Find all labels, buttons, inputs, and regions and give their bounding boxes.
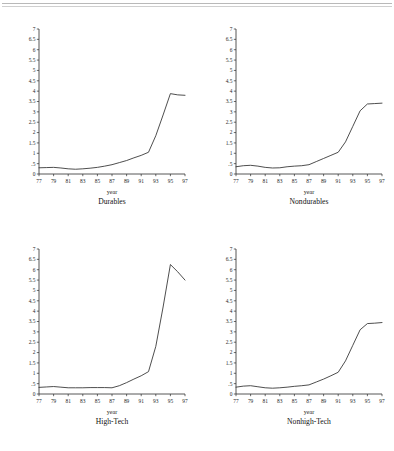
y-tick-label: 6 bbox=[33, 47, 36, 53]
panel-title: Nondurables bbox=[290, 197, 329, 206]
x-tick-label: 95 bbox=[168, 178, 174, 184]
y-tick-label: 3 bbox=[33, 329, 36, 335]
y-tick-label: 7 bbox=[230, 246, 233, 252]
y-tick-label: 1.5 bbox=[29, 360, 36, 366]
x-tick-label: 79 bbox=[51, 398, 57, 404]
y-tick-label: 6.5 bbox=[29, 36, 36, 42]
panel-title: High-Tech bbox=[96, 417, 129, 426]
y-tick-label: 6 bbox=[230, 47, 233, 53]
y-tick-label: 4 bbox=[230, 308, 233, 314]
y-tick-label: 0 bbox=[33, 171, 36, 177]
y-tick-label: 5 bbox=[230, 67, 233, 73]
plot-area: 0.511.522.533.544.555.566.57777981838587… bbox=[197, 231, 394, 451]
x-tick-label: 91 bbox=[336, 398, 342, 404]
y-tick-label: 3.5 bbox=[226, 98, 233, 104]
x-tick-label: 77 bbox=[233, 178, 239, 184]
y-tick-label: 3.5 bbox=[226, 318, 233, 324]
y-tick-label: 2.5 bbox=[226, 339, 233, 345]
x-tick-label: 79 bbox=[51, 178, 57, 184]
y-tick-label: 3 bbox=[230, 109, 233, 115]
header-rule-top bbox=[2, 3, 392, 4]
y-tick-label: 4 bbox=[33, 308, 36, 314]
x-tick-label: 85 bbox=[95, 178, 101, 184]
x-axis-title: year bbox=[304, 188, 315, 195]
y-tick-label: 0 bbox=[230, 391, 233, 397]
x-tick-label: 89 bbox=[124, 398, 130, 404]
y-tick-label: 4 bbox=[230, 88, 233, 94]
axis-spine bbox=[39, 249, 185, 394]
x-axis-title: year bbox=[107, 408, 118, 415]
y-tick-label: .5 bbox=[228, 381, 232, 387]
x-tick-label: 81 bbox=[263, 178, 269, 184]
y-tick-label: 5.5 bbox=[226, 57, 233, 63]
x-tick-label: 97 bbox=[182, 178, 188, 184]
y-tick-label: 6.5 bbox=[226, 36, 233, 42]
x-axis-title: year bbox=[107, 188, 118, 195]
axis-spine bbox=[39, 29, 185, 174]
plot-area: 0.511.522.533.544.555.566.57777981838587… bbox=[0, 11, 197, 231]
y-tick-label: 3.5 bbox=[29, 318, 36, 324]
x-tick-label: 85 bbox=[292, 398, 298, 404]
y-tick-label: 2 bbox=[33, 129, 36, 135]
axis-spine bbox=[236, 249, 382, 394]
axis-spine bbox=[236, 29, 382, 174]
plot-area: 0.511.522.533.544.555.566.57777981838587… bbox=[197, 11, 394, 231]
y-tick-label: 1 bbox=[33, 370, 36, 376]
x-tick-label: 77 bbox=[233, 398, 239, 404]
x-tick-label: 97 bbox=[379, 398, 385, 404]
x-tick-label: 95 bbox=[365, 178, 371, 184]
x-tick-label: 91 bbox=[139, 178, 145, 184]
x-tick-label: 87 bbox=[109, 178, 115, 184]
series-line bbox=[236, 323, 382, 389]
x-tick-label: 95 bbox=[168, 398, 174, 404]
y-tick-label: 5.5 bbox=[226, 277, 233, 283]
y-tick-label: 1 bbox=[33, 150, 36, 156]
y-tick-label: 6 bbox=[33, 267, 36, 273]
x-tick-label: 85 bbox=[292, 178, 298, 184]
x-tick-label: 91 bbox=[336, 178, 342, 184]
panel-title: Nonhigh-Tech bbox=[287, 417, 331, 426]
y-tick-label: 4.5 bbox=[29, 298, 36, 304]
y-tick-label: 7 bbox=[33, 26, 36, 32]
x-tick-label: 97 bbox=[379, 178, 385, 184]
y-tick-label: 6 bbox=[230, 267, 233, 273]
y-tick-label: 5 bbox=[33, 287, 36, 293]
x-tick-label: 89 bbox=[321, 398, 327, 404]
x-tick-label: 77 bbox=[36, 398, 42, 404]
y-tick-label: 7 bbox=[33, 246, 36, 252]
y-tick-label: 2.5 bbox=[29, 339, 36, 345]
y-tick-label: 2.5 bbox=[29, 119, 36, 125]
x-tick-label: 79 bbox=[248, 178, 254, 184]
x-tick-label: 83 bbox=[80, 398, 86, 404]
panel-title: Durables bbox=[98, 197, 125, 206]
y-tick-label: 2 bbox=[230, 349, 233, 355]
x-tick-label: 93 bbox=[153, 178, 159, 184]
x-tick-label: 87 bbox=[306, 178, 312, 184]
panel-nondurables: 0.511.522.533.544.555.566.57777981838587… bbox=[197, 11, 394, 231]
x-axis-title: year bbox=[304, 408, 315, 415]
y-tick-label: 2 bbox=[33, 349, 36, 355]
panel-durables: 0.511.522.533.544.555.566.57777981838587… bbox=[0, 11, 197, 231]
x-tick-label: 85 bbox=[95, 398, 101, 404]
y-tick-label: 2 bbox=[230, 129, 233, 135]
x-tick-label: 83 bbox=[80, 178, 86, 184]
series-line bbox=[39, 94, 185, 170]
y-tick-label: 4.5 bbox=[226, 298, 233, 304]
x-tick-label: 81 bbox=[263, 398, 269, 404]
x-tick-label: 87 bbox=[109, 398, 115, 404]
y-tick-label: 2.5 bbox=[226, 119, 233, 125]
x-tick-label: 97 bbox=[182, 398, 188, 404]
header-rules bbox=[0, 3, 394, 11]
x-tick-label: 89 bbox=[124, 178, 130, 184]
y-tick-label: 3 bbox=[33, 109, 36, 115]
series-line bbox=[39, 265, 185, 388]
y-tick-label: 1.5 bbox=[226, 360, 233, 366]
panel-high-tech: 0.511.522.533.544.555.566.57777981838587… bbox=[0, 231, 197, 451]
y-tick-label: 1 bbox=[230, 150, 233, 156]
y-tick-label: 1.5 bbox=[29, 140, 36, 146]
y-tick-label: 3.5 bbox=[29, 98, 36, 104]
y-tick-label: 0 bbox=[230, 171, 233, 177]
x-tick-label: 95 bbox=[365, 398, 371, 404]
y-tick-label: 0 bbox=[33, 391, 36, 397]
y-tick-label: 5.5 bbox=[29, 57, 36, 63]
